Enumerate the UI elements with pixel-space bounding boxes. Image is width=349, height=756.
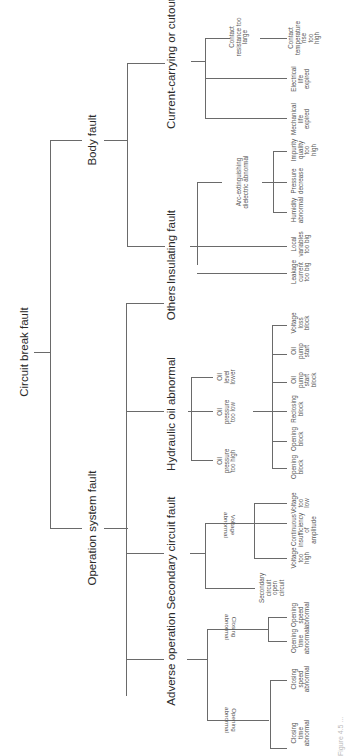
node-voltage-abnormal: Voltageabnormal — [223, 505, 236, 545]
connector — [188, 411, 213, 412]
connector — [207, 629, 269, 630]
connector — [50, 528, 82, 529]
connector — [191, 460, 213, 461]
connector — [126, 553, 164, 554]
connector — [253, 411, 273, 412]
node-closing-speed-abnormal: Closingspeedabnormal — [291, 658, 311, 700]
figure-caption: Figure 4.5 ... — [337, 526, 344, 756]
connector — [268, 617, 287, 618]
node-closing-abnormal: Closingabnormal — [224, 610, 237, 644]
connector — [127, 63, 128, 246]
connector — [205, 523, 206, 589]
node-secondary-circuit-open: Secondarycircuitopencircuit — [259, 568, 285, 608]
node-contact-resistance: Contactresistance toolarge — [229, 14, 249, 60]
node-arc-extinguishing-abnormal: Arc-extinguishingdielectric abnormal — [236, 152, 249, 212]
connector — [272, 411, 287, 412]
connector — [104, 528, 128, 529]
node-others: Others — [165, 278, 177, 328]
connector — [270, 680, 271, 748]
connector — [50, 140, 82, 141]
connector — [270, 680, 287, 681]
connector — [254, 503, 287, 504]
connector — [272, 354, 287, 355]
node-closing-time-abnormal: Closingtimeabnormal — [291, 712, 311, 754]
connector — [205, 523, 287, 524]
connector — [272, 325, 273, 469]
connector — [205, 588, 255, 589]
connector — [190, 246, 287, 247]
connector — [273, 212, 287, 213]
connector — [191, 61, 206, 62]
connector — [205, 78, 287, 79]
connector — [254, 558, 287, 559]
connector — [126, 303, 127, 696]
connector — [272, 441, 287, 442]
connector — [270, 748, 287, 749]
connector — [260, 38, 287, 39]
connector — [127, 246, 165, 247]
node-adverse-operation: Adverse operation — [165, 591, 177, 727]
connector — [197, 273, 287, 274]
connector — [207, 720, 269, 721]
node-opening-abnormal: Openingabnormal — [224, 703, 237, 737]
connector — [268, 641, 287, 642]
connector — [126, 303, 164, 304]
connector — [205, 118, 287, 119]
connector — [272, 325, 287, 326]
node-leakage-current: Leakagecurrenttoo big — [291, 252, 311, 292]
connector — [191, 377, 192, 461]
node-oil-level-lower: Oillevellower — [217, 360, 237, 394]
connector — [197, 182, 222, 183]
connector — [273, 151, 287, 152]
connector — [272, 468, 287, 469]
connector — [50, 140, 51, 528]
connector — [191, 377, 213, 378]
node-body-fault: Body fault — [86, 102, 98, 178]
connector — [205, 38, 230, 39]
connector — [273, 182, 287, 183]
connector — [197, 182, 198, 265]
node-oil-pressure-too-low: Oilpressuretoo low — [217, 392, 237, 432]
node-oil-pressure-too-high: Oilpressuretoo high — [217, 439, 237, 483]
connector — [187, 659, 207, 660]
node-hydraulic-oil-abnormal: Hydraulic oil abnormal — [165, 348, 177, 480]
connector — [272, 382, 287, 383]
connector — [268, 617, 269, 642]
node-voltage-too-high: Voltagetoohigh — [291, 538, 311, 578]
node-opening-block-2: Openingblock — [291, 447, 304, 487]
node-root: Circuit break fault — [18, 292, 30, 412]
connector — [127, 63, 165, 64]
connector — [34, 352, 51, 353]
connector — [207, 629, 208, 721]
node-current-carrying-fault: Current-carrying or cutout fault — [165, 0, 178, 129]
connector — [126, 411, 164, 412]
connector — [190, 553, 206, 554]
connector — [126, 659, 164, 660]
connector — [104, 140, 128, 141]
node-operation-system-fault: Operation system fault — [86, 460, 98, 596]
connector — [254, 503, 255, 559]
node-opening-time-abnormal: Openingtimeabnormal — [291, 620, 311, 662]
